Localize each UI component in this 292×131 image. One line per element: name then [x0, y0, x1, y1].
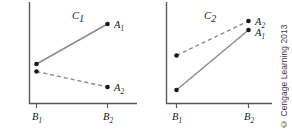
panel-c2-series-a1-line [177, 30, 249, 90]
panel-c1-label-a1: A1 [113, 19, 124, 33]
panel-c2-point-a2-b1 [174, 53, 179, 58]
panel-c1-xtick-label-b2: B2 [103, 111, 113, 125]
panel-c1-xtick-label-b1: B1 [32, 111, 42, 125]
panel-c1-point-a1-b1 [34, 62, 39, 67]
panel-c2: C2 A2 A1 B1 B2 [167, 2, 273, 125]
panel-c1-point-a2-b2 [105, 85, 110, 90]
panel-c2-xtick-label-b2: B2 [244, 111, 254, 125]
panel-c2-title: C2 [204, 10, 217, 24]
panel-c2-point-a1-b2 [246, 28, 251, 33]
panel-c1: C1 A1 A2 B1 B2 [30, 2, 138, 125]
panel-c1-point-a1-b2 [105, 22, 110, 27]
panel-c1-label-a2: A2 [113, 82, 124, 96]
panel-c1-series-a1-line [37, 24, 108, 64]
plot-canvas: C1 A1 A2 B1 B2 C2 A2 A1 B1 B2 [0, 0, 292, 131]
copyright-credit: © Cengage Learning 2013 [277, 1, 291, 129]
panel-c2-point-a1-b1 [174, 88, 179, 93]
interaction-plot-figure: C1 A1 A2 B1 B2 C2 A2 A1 B1 B2 © Cengage … [0, 0, 292, 131]
panel-c1-series-a2-line [37, 72, 108, 88]
panel-c2-point-a2-b2 [246, 19, 251, 24]
panel-c2-xtick-label-b1: B1 [172, 111, 182, 125]
panel-c1-title: C1 [72, 10, 84, 24]
panel-c1-point-a2-b1 [34, 69, 39, 74]
